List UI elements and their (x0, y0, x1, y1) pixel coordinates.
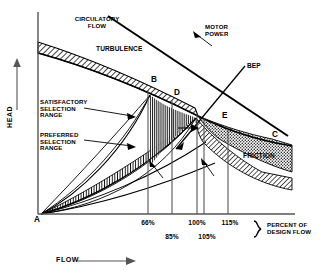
inner-leader-2 (201, 158, 214, 176)
tick-label-105: 105% (188, 233, 226, 240)
tick-label-115: 115% (211, 219, 249, 226)
flow-axis-label: FLOW (56, 256, 79, 264)
motor-power-label: MOTOR POWER (205, 24, 229, 37)
satisfactory-range-label: SATISFACTORY SELECTION RANGE (40, 99, 87, 119)
flow-axis-arrow (78, 257, 136, 265)
point-a-label: A (34, 216, 40, 225)
point-b-label: B (151, 76, 157, 85)
tick-label-85: 85% (155, 233, 189, 240)
head-axis-arrow (13, 58, 21, 110)
pump-performance-chart: CIRCULATORY FLOW TURBULENCE MOTOR POWER … (0, 0, 330, 277)
point-e-label: E (222, 112, 228, 121)
friction-label: FRICTION (243, 152, 275, 159)
head-axis-label: HEAD (6, 106, 14, 128)
circulatory-flow-label: CIRCULATORY FLOW (64, 16, 130, 29)
point-c-label: C (272, 131, 278, 140)
point-d-label: D (174, 89, 180, 98)
percent-brace (254, 221, 261, 237)
satisfactory-leader (84, 108, 136, 120)
tick-label-66: 66% (131, 219, 165, 226)
turbulence-label: TURBULENCE (96, 45, 142, 52)
bep-label: BEP (247, 62, 261, 69)
preferred-range-label: PREFERRED SELECTION RANGE (40, 132, 78, 152)
percent-of-design-flow-label: PERCENT OF DESIGN FLOW (267, 222, 311, 235)
